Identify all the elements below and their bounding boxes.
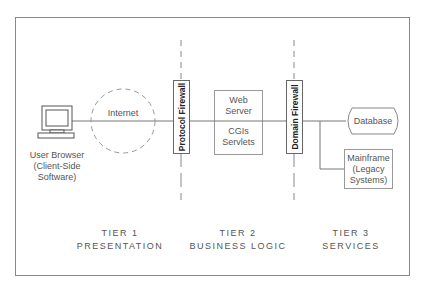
tier-2-label: TIER 2 BUSINESS LOGIC: [188, 227, 288, 253]
mainframe-label: Mainframe (Legacy Systems): [345, 153, 392, 186]
domain-firewall: Domain Firewall: [286, 80, 303, 154]
tier-3-label: TIER 3 SERVICES: [316, 227, 386, 253]
mainframe-line3: Systems): [345, 175, 392, 186]
tier-3-name: TIER 3: [316, 227, 386, 240]
mainframe-line2: (Legacy: [345, 164, 392, 175]
tier-1-name: TIER 1: [70, 227, 170, 240]
tier-3-desc: SERVICES: [316, 240, 386, 253]
mainframe-line1: Mainframe: [345, 153, 392, 164]
database-label: Database: [348, 116, 398, 127]
domain-firewall-label: Domain Firewall: [290, 84, 300, 149]
tier-1-label: TIER 1 PRESENTATION: [70, 227, 170, 253]
mainframe-box: Mainframe (Legacy Systems): [344, 149, 393, 189]
tier-2-name: TIER 2: [188, 227, 288, 240]
tier-1-desc: PRESENTATION: [70, 240, 170, 253]
tier-2-desc: BUSINESS LOGIC: [188, 240, 288, 253]
